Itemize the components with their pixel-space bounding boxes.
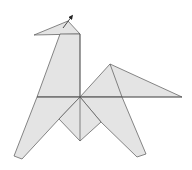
origami-horse-diagram [0,0,192,170]
head-face [34,21,80,35]
neck-face [37,34,80,97]
tail-face [80,64,182,97]
